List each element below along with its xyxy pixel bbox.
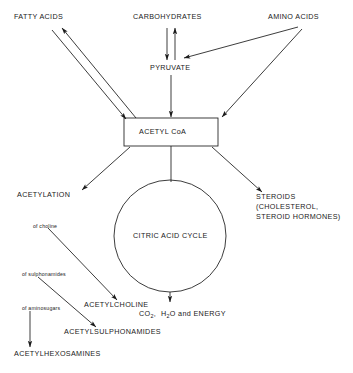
node-energy-products: CO2, H2O and ENERGY (139, 309, 226, 321)
node-citric-acid-cycle: CITRIC ACID CYCLE (133, 231, 208, 241)
node-acetylsulphonamides: ACETYLSULPHONAMIDES (64, 327, 161, 337)
node-steroids-line3: STEROID HORMONES) (256, 212, 341, 222)
label-of-aminosugars: of aminosugars (22, 304, 60, 314)
node-acetylation: ACETYLATION (17, 190, 70, 200)
label-of-sulphonamides: of sulphonamides (22, 270, 66, 280)
edge-acetylcoa-to-steroids (212, 147, 262, 192)
node-acetylhexosamines: ACETYLHEXOSAMINES (14, 349, 101, 359)
edge-aminoacids-to-acetylcoa (222, 29, 302, 117)
node-steroids-line2: (CHOLESTEROL, (256, 202, 318, 212)
node-fatty-acids: FATTY ACIDS (14, 12, 63, 22)
edge-aminoacids-to-pyruvate (184, 27, 298, 58)
node-pyruvate: PYRUVATE (150, 63, 190, 73)
metabolic-pathway-diagram: FATTY ACIDS CARBOHYDRATES AMINO ACIDS PY… (0, 0, 353, 373)
label-of-choline: of choline (33, 222, 57, 232)
node-amino-acids: AMINO ACIDS (268, 12, 319, 22)
energy-co2-text: CO (139, 309, 150, 318)
edge-fattyacids-to-acetylcoa (52, 30, 126, 119)
energy-tail-text: O and ENERGY (170, 309, 226, 318)
node-steroids-line1: STEROIDS (256, 192, 296, 202)
edge-acetylation-to-acetylcholine (48, 228, 117, 300)
node-carbohydrates: CARBOHYDRATES (133, 12, 202, 22)
edge-acetylcoa-to-fattyacids (62, 28, 136, 118)
node-acetyl-coa: ACETYL CoA (139, 127, 186, 137)
edge-acetylcoa-to-acetylation (82, 147, 130, 190)
energy-separator: , H (154, 309, 167, 318)
